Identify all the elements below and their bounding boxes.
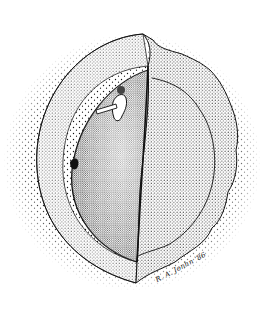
illustration: R. A. Jonhn '86 (0, 0, 265, 314)
shell-drawing (0, 0, 265, 314)
